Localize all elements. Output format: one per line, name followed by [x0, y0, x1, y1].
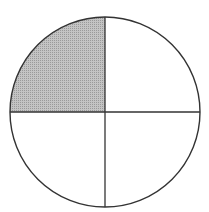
shaded-quadrant [10, 17, 105, 112]
fraction-circle-diagram [0, 0, 209, 212]
